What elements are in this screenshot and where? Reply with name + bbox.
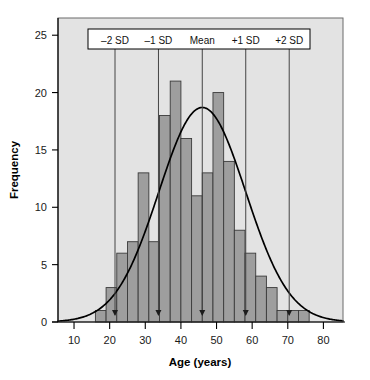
chart-canvas: –2 SD–1 SDMean+1 SD+2 SD 0510152025 Freq… <box>0 0 370 380</box>
histogram-bar <box>95 311 106 322</box>
legend-label-minus-2-sd: –2 SD <box>101 35 129 46</box>
y-axis: 0510152025 Frequency <box>8 18 58 328</box>
x-axis-ticks: 1020304050607080 <box>68 322 330 346</box>
y-axis-title: Frequency <box>8 140 20 199</box>
histogram-bar <box>266 288 277 322</box>
histogram-bar <box>181 138 192 322</box>
y-tick-label: 10 <box>35 201 47 213</box>
histogram-bar <box>160 116 171 322</box>
x-tick-label: 20 <box>104 334 116 346</box>
histogram-bar <box>170 81 181 322</box>
histogram-figure: –2 SD–1 SDMean+1 SD+2 SD 0510152025 Freq… <box>0 0 370 380</box>
x-axis: 1020304050607080 Age (years) <box>52 322 345 368</box>
y-tick-label: 25 <box>35 29 47 41</box>
histogram-bar <box>192 196 203 322</box>
legend-label-plus-2-sd: +2 SD <box>275 35 303 46</box>
x-tick-label: 80 <box>317 334 329 346</box>
histogram-bar <box>256 276 267 322</box>
y-tick-label: 20 <box>35 87 47 99</box>
y-axis-ticks: 0510152025 <box>35 29 58 328</box>
legend-label-mean: Mean <box>190 35 215 46</box>
histogram-bar <box>202 173 213 322</box>
x-tick-label: 50 <box>210 334 222 346</box>
y-tick-label: 5 <box>41 259 47 271</box>
histogram-bar <box>277 311 288 322</box>
x-tick-label: 10 <box>68 334 80 346</box>
histogram-bar <box>298 311 309 322</box>
x-tick-label: 40 <box>175 334 187 346</box>
x-tick-label: 60 <box>246 334 258 346</box>
histogram-bar <box>224 161 235 322</box>
x-axis-title: Age (years) <box>169 356 232 368</box>
y-tick-label: 15 <box>35 144 47 156</box>
y-tick-label: 0 <box>41 316 47 328</box>
sd-legend: –2 SD–1 SDMean+1 SD+2 SD <box>88 29 310 49</box>
legend-label-minus-1-sd: –1 SD <box>145 35 173 46</box>
x-tick-label: 70 <box>282 334 294 346</box>
x-tick-label: 30 <box>139 334 151 346</box>
histogram-bar <box>149 242 160 322</box>
legend-label-plus-1-sd: +1 SD <box>232 35 260 46</box>
histogram-bar <box>234 230 245 322</box>
